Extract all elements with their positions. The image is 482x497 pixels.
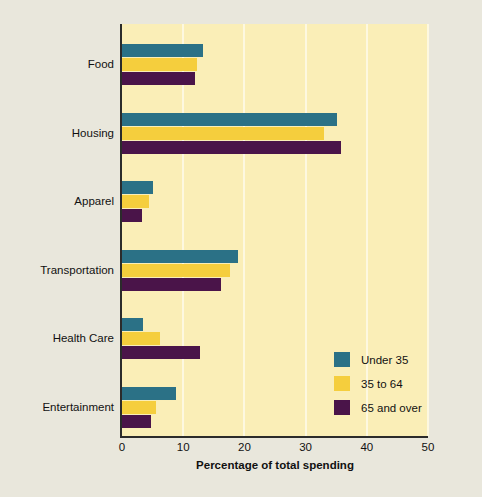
- category-label: Apparel: [0, 195, 114, 207]
- legend-swatch-icon: [334, 376, 350, 391]
- x-tick-label: 0: [107, 441, 137, 453]
- bar: [122, 278, 221, 291]
- legend-label: 65 and over: [361, 402, 422, 414]
- x-tick-label: 30: [291, 441, 321, 453]
- bar: [122, 141, 341, 154]
- bar: [122, 250, 238, 263]
- bar: [122, 346, 200, 359]
- x-axis-line: [120, 436, 428, 438]
- category-label: Food: [0, 58, 114, 70]
- bar: [122, 44, 203, 57]
- bar: [122, 58, 197, 71]
- x-tick-label: 50: [413, 441, 443, 453]
- bar: [122, 264, 230, 277]
- gridline-20: [243, 24, 245, 436]
- y-axis-line: [120, 24, 122, 438]
- category-label: Entertainment: [0, 401, 114, 413]
- gridline-50: [427, 24, 429, 436]
- legend-swatch-icon: [334, 400, 350, 415]
- bar: [122, 332, 160, 345]
- bar: [122, 209, 142, 222]
- bar: [122, 318, 143, 331]
- bar: [122, 401, 156, 414]
- category-label: Housing: [0, 127, 114, 139]
- bar: [122, 387, 176, 400]
- legend-item[interactable]: 65 and over: [334, 400, 422, 415]
- gridline-30: [305, 24, 307, 436]
- bar: [122, 181, 153, 194]
- x-tick-label: 10: [168, 441, 198, 453]
- legend-label: Under 35: [361, 354, 408, 366]
- legend-item[interactable]: 35 to 64: [334, 376, 422, 391]
- legend-label: 35 to 64: [361, 378, 403, 390]
- chart-figure: FoodHousingApparelTransportationHealth C…: [0, 0, 482, 497]
- category-label: Health Care: [0, 332, 114, 344]
- bar: [122, 127, 324, 140]
- bar: [122, 113, 337, 126]
- legend-item[interactable]: Under 35: [334, 352, 422, 367]
- category-label: Transportation: [0, 264, 114, 276]
- x-tick-label: 20: [229, 441, 259, 453]
- bar: [122, 72, 195, 85]
- chart-legend[interactable]: Under 3535 to 6465 and over: [334, 352, 422, 424]
- gridline-10: [182, 24, 184, 436]
- bar: [122, 415, 151, 428]
- x-tick-label: 40: [352, 441, 382, 453]
- bar: [122, 195, 149, 208]
- x-axis-title: Percentage of total spending: [122, 459, 428, 471]
- legend-swatch-icon: [334, 352, 350, 367]
